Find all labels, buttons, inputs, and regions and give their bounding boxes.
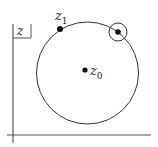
point-z0 [82,67,87,72]
label-z1: z1 [54,8,68,26]
label-z0: z0 [89,63,103,81]
boundary-point [115,29,121,35]
complex-plane-diagram: z z1 z0 [0,0,158,147]
main-circle [37,22,139,124]
plane-label: z [16,24,24,38]
point-z1 [57,26,63,32]
plane-label-box: z [13,24,31,38]
